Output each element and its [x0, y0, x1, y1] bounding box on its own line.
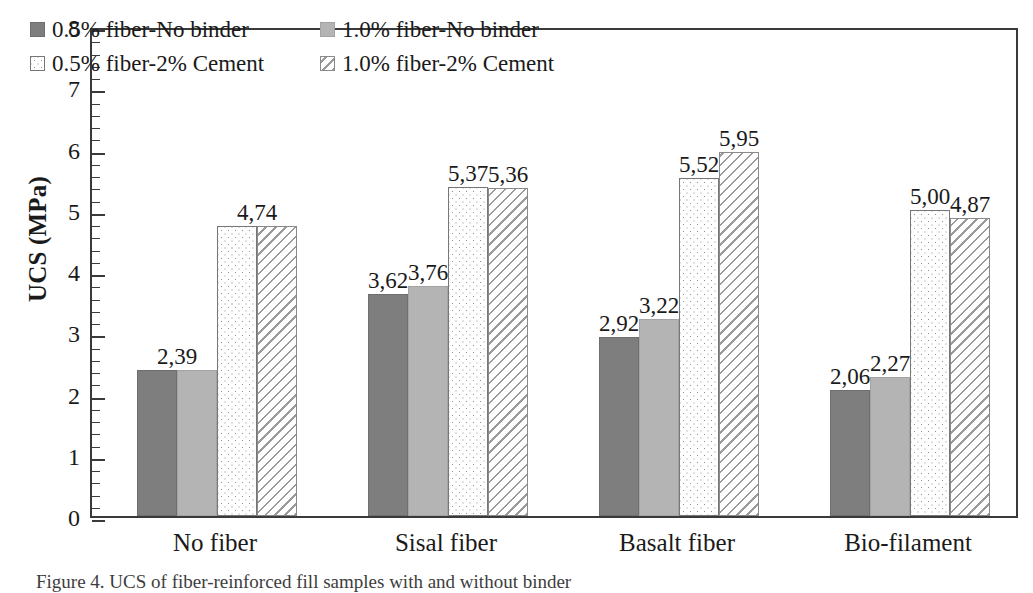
y-tick-mark	[92, 459, 105, 461]
legend-swatch-icon-3	[320, 56, 335, 71]
legend-label-0: 0.5% fiber-No binder	[52, 18, 249, 41]
bar-value-label: 5,95	[711, 127, 767, 150]
bar	[910, 210, 950, 516]
y-tick-mark	[92, 238, 100, 239]
y-tick-mark	[92, 324, 100, 325]
y-tick-mark	[92, 177, 100, 178]
y-tick-mark	[92, 361, 100, 362]
plot-area: 2,394,743,623,765,375,362,923,225,525,95…	[90, 28, 1018, 518]
y-tick-mark	[92, 349, 100, 350]
bar	[830, 390, 870, 516]
x-axis-label-1: Sisal fiber	[336, 528, 556, 558]
y-tick-mark	[92, 165, 100, 166]
y-tick-label-1: 1	[52, 445, 80, 469]
y-tick-label-5: 5	[52, 200, 80, 224]
bar	[679, 178, 719, 516]
y-tick-mark	[92, 91, 105, 93]
y-tick-mark	[92, 373, 100, 374]
bar	[257, 226, 297, 516]
y-tick-label-7: 7	[52, 77, 80, 101]
legend-label-1: 1.0% fiber-No binder	[342, 18, 539, 41]
y-tick-label-3: 3	[52, 322, 80, 346]
legend-swatch-icon-2	[30, 56, 45, 71]
x-axis-category-labels: No fiberSisal fiberBasalt fiberBio-filam…	[90, 528, 1018, 568]
y-tick-mark	[92, 128, 100, 129]
bar	[488, 188, 528, 516]
bar	[870, 377, 910, 516]
y-tick-mark	[92, 116, 100, 117]
y-tick-mark	[92, 263, 100, 264]
y-tick-mark	[92, 189, 100, 190]
y-tick-label-6: 6	[52, 139, 80, 163]
y-axis-tick-labels: 012345678	[40, 0, 80, 588]
legend-label-2: 0.5% fiber-2% Cement	[52, 52, 264, 75]
y-tick-mark	[92, 300, 100, 301]
legend-item-0[interactable]: 0.5% fiber-No binder	[30, 18, 320, 41]
legend-label-3: 1.0% fiber-2% Cement	[342, 52, 554, 75]
x-axis-label-0: No fiber	[105, 528, 325, 558]
bar-value-label: 4,74	[217, 201, 297, 224]
bar	[368, 294, 408, 516]
y-tick-mark	[92, 447, 100, 448]
x-axis-label-2: Basalt fiber	[567, 528, 787, 558]
y-tick-mark	[92, 104, 100, 105]
y-tick-mark	[92, 214, 105, 216]
y-tick-mark	[92, 202, 100, 203]
legend-row-2: 0.5% fiber-2% Cement 1.0% fiber-2% Cemen…	[30, 46, 590, 80]
legend-item-2[interactable]: 0.5% fiber-2% Cement	[30, 52, 320, 75]
bar	[448, 187, 488, 516]
y-tick-mark	[92, 312, 100, 313]
y-tick-mark	[92, 471, 100, 472]
bar	[408, 286, 448, 516]
bar-value-label: 4,87	[942, 193, 998, 216]
legend-row-1: 0.5% fiber-No binder 1.0% fiber-No binde…	[30, 12, 590, 46]
y-tick-label-4: 4	[52, 261, 80, 285]
bar	[217, 226, 257, 516]
y-tick-label-0: 0	[52, 506, 80, 530]
bar	[639, 319, 679, 516]
bar	[719, 152, 759, 516]
y-tick-mark	[92, 287, 100, 288]
y-tick-mark	[92, 422, 100, 423]
chart-legend: 0.5% fiber-No binder 1.0% fiber-No binde…	[30, 12, 590, 80]
bar-value-label: 5,36	[480, 163, 536, 186]
y-tick-mark	[92, 520, 105, 522]
y-tick-mark	[92, 483, 100, 484]
figure-caption: Figure 4. UCS of fiber-reinforced fill s…	[36, 570, 1016, 593]
y-tick-mark	[92, 153, 105, 155]
y-tick-mark	[92, 275, 105, 277]
y-tick-mark	[92, 508, 100, 509]
legend-item-1[interactable]: 1.0% fiber-No binder	[320, 18, 539, 41]
y-tick-mark	[92, 496, 100, 497]
y-tick-mark	[92, 410, 100, 411]
y-tick-label-2: 2	[52, 384, 80, 408]
y-tick-mark	[92, 385, 100, 386]
bar	[950, 218, 990, 516]
y-tick-mark	[92, 398, 105, 400]
x-axis-label-3: Bio-filament	[798, 528, 1018, 558]
y-tick-mark	[92, 336, 105, 338]
y-tick-mark	[92, 251, 100, 252]
legend-swatch-icon-1	[320, 22, 335, 37]
bar	[137, 370, 177, 516]
bar	[177, 370, 217, 516]
y-tick-mark	[92, 140, 100, 141]
legend-item-3[interactable]: 1.0% fiber-2% Cement	[320, 52, 554, 75]
y-tick-mark	[92, 226, 100, 227]
y-tick-mark	[92, 434, 100, 435]
bar	[599, 337, 639, 516]
legend-swatch-icon-0	[30, 22, 45, 37]
bar-value-label: 2,39	[137, 345, 217, 368]
